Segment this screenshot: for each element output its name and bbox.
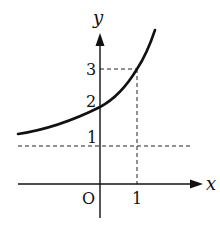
y-axis-arrow-icon xyxy=(96,33,105,46)
origin-label: O xyxy=(82,189,95,208)
y-tick-3: 3 xyxy=(86,60,96,79)
x-axis-label: x xyxy=(206,173,216,194)
y-tick-2: 2 xyxy=(86,92,96,111)
exponential-graph-figure: y x O 1 1 2 3 xyxy=(0,0,220,228)
exponential-curve xyxy=(18,30,155,134)
y-tick-1: 1 xyxy=(87,128,97,147)
x-axis-arrow-icon xyxy=(190,180,203,189)
x-tick-1: 1 xyxy=(132,189,142,208)
y-axis-label: y xyxy=(92,7,104,28)
